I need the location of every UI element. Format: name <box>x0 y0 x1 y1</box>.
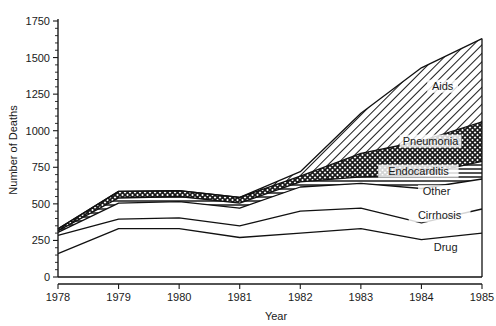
series-label-cirrhosis: Cirrhosis <box>418 209 462 221</box>
x-tick-label-1981: 1981 <box>227 291 251 303</box>
x-tick-label-1985: 1985 <box>470 291 494 303</box>
x-tick-label-1978: 1978 <box>46 291 70 303</box>
x-tick-label-1982: 1982 <box>288 291 312 303</box>
y-tick-label-1250: 1250 <box>26 88 50 100</box>
chart-container: 0250500750100012501500175019781979198019… <box>0 0 496 326</box>
y-tick-label-250: 250 <box>32 234 50 246</box>
y-tick-label-0: 0 <box>44 271 50 283</box>
y-tick-label-750: 750 <box>32 161 50 173</box>
x-tick-label-1984: 1984 <box>409 291 433 303</box>
series-label-pneumonia: Pneumonia <box>403 135 460 147</box>
area-bands-group <box>58 39 482 277</box>
x-axis-title: Year <box>265 310 288 322</box>
series-label-other: Other <box>423 185 451 197</box>
series-label-aids: Aids <box>432 80 454 92</box>
series-label-endocarditis: Endocarditis <box>388 165 449 177</box>
x-tick-label-1983: 1983 <box>349 291 373 303</box>
stacked-area-chart: 0250500750100012501500175019781979198019… <box>0 0 496 326</box>
y-tick-label-1500: 1500 <box>26 52 50 64</box>
y-axis-title: Number of Deaths <box>7 105 19 195</box>
x-tick-label-1979: 1979 <box>106 291 130 303</box>
y-tick-label-500: 500 <box>32 198 50 210</box>
y-tick-label-1750: 1750 <box>26 15 50 27</box>
series-label-drug: Drug <box>434 241 458 253</box>
y-tick-label-1000: 1000 <box>26 125 50 137</box>
x-tick-label-1980: 1980 <box>167 291 191 303</box>
